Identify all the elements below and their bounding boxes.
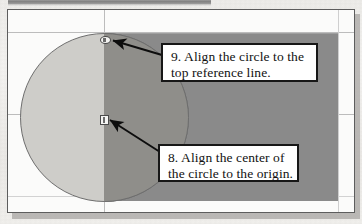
right-reference-line <box>338 10 339 212</box>
figure-panel: 9. Align the circle to the top reference… <box>7 9 355 213</box>
callout-step-8: 8. Align the center of the circle to the… <box>158 144 299 182</box>
callout-step-8-line-1: 8. Align the center of <box>168 150 291 166</box>
callout-step-9-line-2: top reference line. <box>171 65 310 81</box>
top-dark-band-fade <box>8 4 211 6</box>
figure-page: 9. Align the circle to the top reference… <box>0 0 362 224</box>
callout-step-9-line-1: 9. Align the circle to the <box>171 49 310 65</box>
circle-center-handle-dot <box>103 117 105 123</box>
circle-top-handle-dot <box>103 38 106 42</box>
callout-step-9: 9. Align the circle to the top reference… <box>161 43 318 82</box>
callout-step-8-line-2: the circle to the origin. <box>168 166 291 182</box>
